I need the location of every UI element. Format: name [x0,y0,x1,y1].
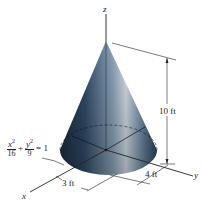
cone-body [60,41,157,175]
x-axis-label: x [21,191,26,201]
cone-diagram-svg: z x y 10 ft [0,0,203,206]
z-axis-label: z [102,4,107,14]
height-label: 10 ft [159,106,176,116]
equation-leader [42,158,64,165]
equation-plus: + [18,143,23,153]
semi-axis-x-label: 3 ft [62,178,75,188]
equation-rhs: = 1 [36,143,48,153]
equation-term-x: x2 16 [7,138,16,158]
ellipse-equation: x2 16 + y2 9 = 1 [7,138,48,158]
y-axis-label: y [193,170,198,180]
cone-figure: z x y 10 ft [0,0,203,206]
semi-axis-y-label: 4 ft [145,169,158,179]
equation-term-y: y2 9 [25,138,34,158]
